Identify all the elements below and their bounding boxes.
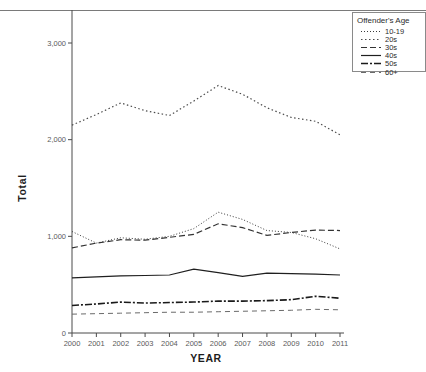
x-tick-label: 2002: [112, 339, 129, 348]
series-line-60-: [72, 309, 340, 314]
legend-line-swatch-icon: [361, 69, 381, 76]
y-tick-label: 1,000: [47, 232, 66, 241]
series-line-30s: [72, 224, 340, 248]
x-tick-label: 2010: [307, 339, 324, 348]
y-tick-label: 3,000: [47, 39, 66, 48]
x-tick-label: 2004: [161, 339, 178, 348]
x-tick-label: 2001: [88, 339, 105, 348]
series-line-10-19: [72, 212, 340, 249]
x-tick-label: 2000: [64, 339, 81, 348]
axes-group: [68, 10, 344, 337]
axis-labels-group: 01,0002,0003,000200020012002200320042005…: [16, 39, 348, 365]
series-group: [72, 86, 340, 315]
legend-rows: 10-1920s30s40s50s60+: [353, 27, 425, 76]
legend-line-swatch-icon: [361, 44, 381, 51]
legend-title: Offender's Age: [353, 13, 425, 27]
legend-item-60-[interactable]: 60+: [353, 68, 425, 76]
y-tick-label: 0: [62, 329, 66, 338]
x-tick-label: 2003: [137, 339, 154, 348]
x-tick-label: 2006: [210, 339, 227, 348]
legend-line-swatch-icon: [361, 52, 381, 59]
series-line-40s: [72, 269, 340, 278]
x-tick-label: 2008: [259, 339, 276, 348]
legend-line-swatch-icon: [361, 28, 381, 35]
series-line-50s: [72, 296, 340, 305]
legend-line-swatch-icon: [361, 60, 381, 67]
x-tick-label: 2009: [283, 339, 300, 348]
legend-item-label: 60+: [385, 68, 398, 77]
chart-screenshot: 01,0002,0003,000200020012002200320042005…: [0, 0, 426, 372]
legend-line-swatch-icon: [361, 36, 381, 43]
legend-panel[interactable]: Offender's Age 10-1920s30s40s50s60+: [352, 12, 426, 72]
series-line-20s: [72, 86, 340, 135]
x-tick-label: 2007: [234, 339, 251, 348]
x-tick-label: 2011: [332, 339, 348, 348]
y-tick-label: 2,000: [47, 135, 66, 144]
y-axis-title: Total: [16, 174, 28, 201]
x-tick-label: 2005: [185, 339, 202, 348]
x-axis-title: YEAR: [190, 352, 222, 364]
